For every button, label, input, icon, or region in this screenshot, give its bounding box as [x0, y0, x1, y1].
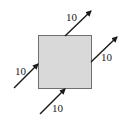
block — [39, 36, 92, 89]
force-label-top: 10 — [66, 11, 78, 23]
force-diagram: 10 10 10 10 — [0, 0, 122, 120]
force-label-left: 10 — [15, 65, 27, 77]
force-label-right: 10 — [101, 51, 113, 63]
force-label-bottom: 10 — [52, 102, 64, 114]
